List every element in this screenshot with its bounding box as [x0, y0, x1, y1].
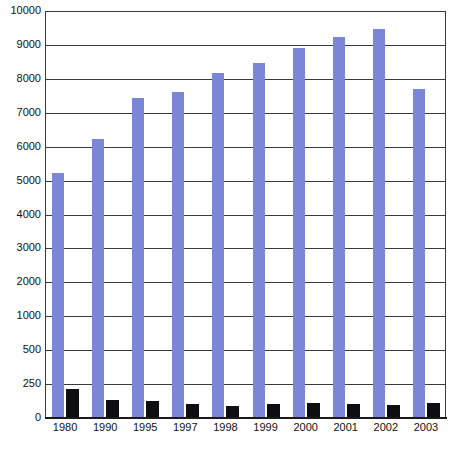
x-axis-baseline — [45, 417, 447, 419]
gridline-4000 — [46, 215, 445, 216]
bar-black-1999 — [267, 404, 280, 417]
x-tick-label-2002: 2002 — [366, 421, 406, 434]
bar-blue-2003 — [413, 89, 425, 417]
y-tick-label: 3000 — [1, 242, 41, 253]
gridline-9000 — [46, 45, 445, 46]
bar-blue-1995 — [132, 98, 144, 417]
bar-blue-2002 — [373, 29, 385, 417]
bar-black-1995 — [146, 401, 159, 417]
bar-blue-2000 — [293, 48, 305, 417]
x-axis-labels: 1980199019951997199819992000200120022003 — [45, 421, 446, 441]
gridline-500 — [46, 350, 445, 351]
bar-blue-1980 — [52, 173, 64, 417]
bar-black-1980 — [66, 389, 79, 417]
x-tick-label-1980: 1980 — [45, 421, 85, 434]
bar-blue-1997 — [172, 92, 184, 417]
x-tick-label-1999: 1999 — [246, 421, 286, 434]
y-tick-label: 7000 — [1, 107, 41, 118]
gridline-8000 — [46, 79, 445, 80]
y-tick-label: 4000 — [1, 209, 41, 220]
x-tick-label-1995: 1995 — [125, 421, 165, 434]
gridline-10000 — [46, 11, 445, 12]
y-tick-label: 250 — [1, 378, 41, 389]
y-tick-label: 1000 — [1, 310, 41, 321]
bar-black-2001 — [347, 404, 360, 417]
y-tick-label: 0 — [1, 412, 41, 423]
gridline-5000 — [46, 181, 445, 182]
gridline-1000 — [46, 316, 445, 317]
bar-black-1997 — [186, 404, 199, 417]
bar-blue-2001 — [333, 37, 345, 417]
x-tick-label-2000: 2000 — [286, 421, 326, 434]
bar-black-1990 — [106, 400, 119, 417]
y-axis-labels: 0250500100020003000400050006000700080009… — [0, 0, 41, 452]
plot-area — [45, 11, 446, 418]
x-tick-label-1998: 1998 — [205, 421, 245, 434]
y-tick-label: 9000 — [1, 39, 41, 50]
bar-blue-1990 — [92, 139, 104, 417]
bar-black-2002 — [387, 405, 400, 417]
gridline-3000 — [46, 248, 445, 249]
bar-black-1998 — [226, 406, 239, 417]
bar-blue-1999 — [253, 63, 265, 417]
bar-black-2003 — [427, 403, 440, 417]
gridline-250 — [46, 384, 445, 385]
y-tick-label: 8000 — [1, 73, 41, 84]
bar-chart: 0250500100020003000400050006000700080009… — [0, 0, 460, 452]
y-tick-label: 5000 — [1, 175, 41, 186]
y-tick-label: 500 — [1, 344, 41, 355]
x-tick-label-2003: 2003 — [406, 421, 446, 434]
x-tick-label-1990: 1990 — [85, 421, 125, 434]
gridline-6000 — [46, 147, 445, 148]
y-tick-label: 10000 — [1, 5, 41, 16]
x-tick-label-1997: 1997 — [165, 421, 205, 434]
gridline-7000 — [46, 113, 445, 114]
bar-black-2000 — [307, 403, 320, 417]
y-tick-label: 2000 — [1, 276, 41, 287]
y-tick-label: 6000 — [1, 141, 41, 152]
bar-blue-1998 — [212, 73, 224, 417]
gridline-2000 — [46, 282, 445, 283]
x-tick-label-2001: 2001 — [326, 421, 366, 434]
